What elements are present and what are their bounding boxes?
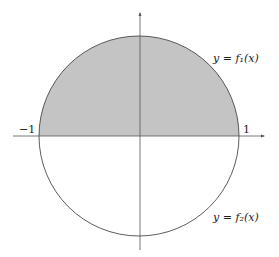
- x-axis-arrow-icon: [261, 135, 265, 138]
- x-right-tick-label: 1: [243, 123, 250, 136]
- shaded-upper-half: [39, 36, 239, 136]
- upper-curve-label: y = f₁(x): [212, 52, 259, 65]
- diagram-canvas: y = f₁(x) y = f₂(x) −1 1: [0, 0, 279, 257]
- lower-curve-label: y = f₂(x): [212, 211, 259, 224]
- x-left-tick-label: −1: [19, 123, 35, 136]
- y-axis-arrow-icon: [139, 12, 142, 16]
